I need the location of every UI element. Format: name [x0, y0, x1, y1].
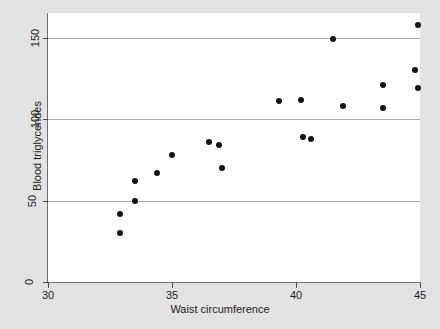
y-axis-line [47, 13, 48, 282]
data-point [132, 178, 138, 184]
x-tick-label-45: 45 [414, 289, 426, 301]
data-point [117, 211, 123, 217]
data-point [415, 22, 421, 28]
data-point [216, 142, 222, 148]
y-axis-title: Blood triglycerides [31, 66, 43, 226]
data-point [169, 152, 175, 158]
data-point [412, 67, 418, 73]
y-tick-label-0: 0 [23, 279, 35, 285]
data-point [340, 103, 346, 109]
y-tick-100 [43, 119, 48, 120]
gridline-y-50 [48, 201, 420, 202]
data-point [132, 198, 138, 204]
gridline-y-100 [48, 119, 420, 120]
x-tick-label-40: 40 [290, 289, 302, 301]
plot-area [48, 13, 420, 282]
x-tick-35 [172, 283, 173, 288]
data-point [276, 98, 282, 104]
data-point [380, 105, 386, 111]
y-tick-0 [43, 282, 48, 283]
x-tick-40 [296, 283, 297, 288]
x-axis-title: Waist circumference [0, 303, 440, 315]
data-point [117, 230, 123, 236]
y-tick-50 [43, 201, 48, 202]
y-tick-label-150: 150 [29, 28, 41, 46]
x-axis-line [48, 282, 421, 283]
y-tick-150 [43, 38, 48, 39]
data-point [330, 36, 336, 42]
x-tick-label-35: 35 [166, 289, 178, 301]
data-point [206, 139, 212, 145]
data-point [154, 170, 160, 176]
x-tick-label-30: 30 [42, 289, 54, 301]
gridline-y-150 [48, 38, 420, 39]
data-point [219, 165, 225, 171]
data-point [415, 85, 421, 91]
data-point [298, 97, 304, 103]
data-point [300, 134, 306, 140]
data-point [380, 82, 386, 88]
x-tick-30 [48, 283, 49, 288]
scatter-plot-figure: 30354045 050100150 Waist circumference B… [0, 0, 440, 329]
x-tick-45 [420, 283, 421, 288]
data-point [308, 136, 314, 142]
